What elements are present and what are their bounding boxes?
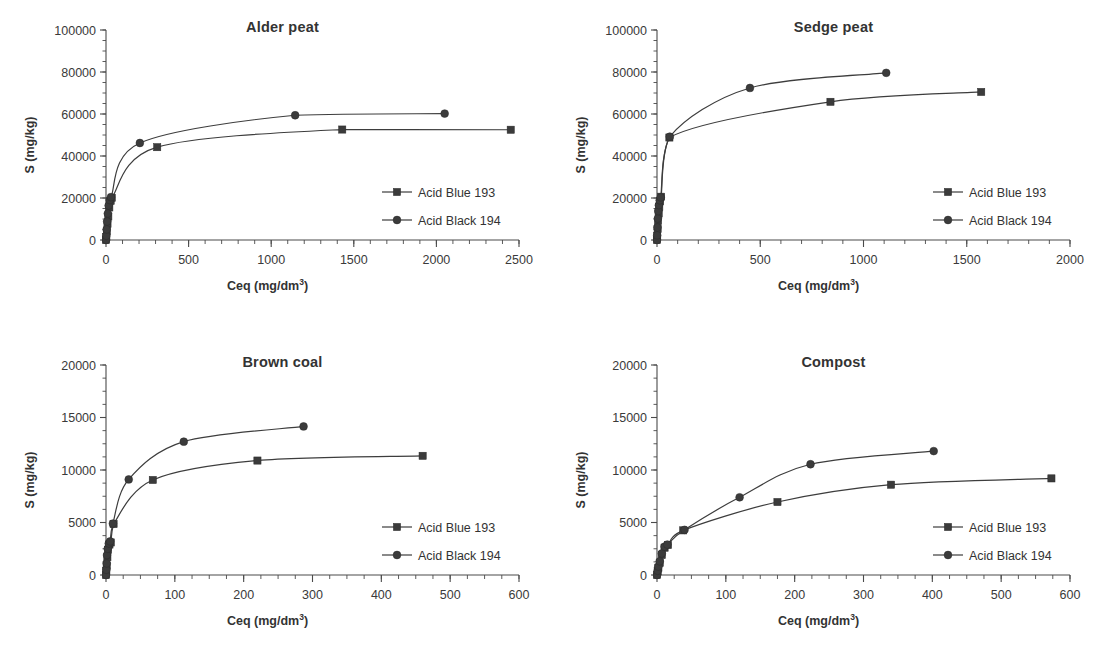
data-point-square [978,88,985,95]
x-tick-label: 1000 [257,253,285,267]
x-tick-label: 0 [654,253,661,267]
data-point-circle [441,110,449,118]
x-tick-label: 300 [302,588,323,602]
chart-panel-compost: Compost050001000015000200000100200300400… [551,335,1102,670]
legend-entry-acid-blue-193[interactable]: Acid Blue 193 [382,521,495,535]
y-tick-label: 20000 [612,192,647,206]
legend-label: Acid Blue 193 [969,521,1046,535]
y-tick-label: 40000 [61,150,96,164]
series-line-acid-black-194 [657,451,934,575]
legend-entry-acid-black-194[interactable]: Acid Black 194 [933,549,1052,563]
legend-label: Acid Blue 193 [418,186,495,200]
chart-panel-alder-peat: Alder peat020000400006000080000100000050… [0,0,551,335]
y-tick-label: 20000 [61,192,96,206]
x-tick-label: 500 [440,588,461,602]
y-tick-label: 0 [640,234,647,248]
legend-square-marker [393,523,400,530]
x-tick-label: 2500 [505,253,533,267]
data-point-circle [736,493,744,501]
data-point-circle [104,210,112,218]
x-tick-label: 300 [853,588,874,602]
series-line-acid-blue-193 [657,92,981,240]
data-point-circle [666,133,674,141]
y-tick-label: 100000 [54,24,96,38]
x-tick-label: 500 [991,588,1012,602]
data-point-circle [656,557,664,565]
y-tick-label: 0 [89,569,96,583]
legend-label: Acid Blue 193 [418,521,495,535]
x-tick-label: 1000 [850,253,878,267]
y-axis-label: S (mg/kg) [574,452,588,509]
x-tick-label: 500 [178,253,199,267]
data-point-square [419,452,426,459]
y-tick-label: 20000 [612,359,647,373]
data-point-square [149,476,156,483]
data-point-square [507,126,514,133]
y-tick-label: 5000 [68,516,96,530]
legend-label: Acid Black 194 [418,549,501,563]
x-tick-label: 600 [1060,588,1081,602]
y-axis-label: S (mg/kg) [574,117,588,174]
x-axis-label: Ceq (mg/dm3) [227,277,308,293]
legend-circle-marker [393,551,401,559]
x-tick-label: 200 [784,588,805,602]
data-point-circle [300,423,308,431]
chart-svg-0: Alder peat020000400006000080000100000050… [0,0,551,335]
legend-entry-acid-blue-193[interactable]: Acid Blue 193 [933,186,1046,200]
x-tick-label: 400 [922,588,943,602]
data-point-circle [882,69,890,77]
data-point-circle [654,224,662,232]
y-tick-label: 80000 [61,66,96,80]
x-tick-label: 0 [103,253,110,267]
data-point-square [339,126,346,133]
series-line-acid-black-194 [657,73,886,240]
data-point-circle [180,438,188,446]
legend-circle-marker [944,551,952,559]
legend-entry-acid-black-194[interactable]: Acid Black 194 [382,214,501,228]
y-tick-label: 15000 [61,411,96,425]
chart-title: Sedge peat [794,19,873,35]
chart-svg-2: Brown coal050001000015000200000100200300… [0,335,551,670]
data-point-circle [103,226,111,234]
data-point-circle [103,218,111,226]
data-point-circle [136,139,144,147]
y-tick-label: 60000 [612,108,647,122]
y-tick-label: 5000 [619,516,647,530]
data-point-circle [807,460,815,468]
x-tick-label: 2000 [422,253,450,267]
x-axis-label: Ceq (mg/dm3) [778,277,859,293]
y-tick-label: 40000 [612,150,647,164]
data-point-circle [109,520,117,528]
y-tick-label: 80000 [612,66,647,80]
legend-label: Acid Black 194 [969,214,1052,228]
y-tick-label: 0 [89,234,96,248]
x-tick-label: 2000 [1056,253,1084,267]
legend-circle-marker [944,216,952,224]
legend-label: Acid Blue 193 [969,186,1046,200]
data-point-circle [103,560,111,568]
legend-square-marker [393,188,400,195]
chart-title: Brown coal [242,354,322,370]
legend-entry-acid-black-194[interactable]: Acid Black 194 [382,549,501,563]
data-point-circle [657,193,665,201]
x-tick-label: 200 [233,588,254,602]
data-point-circle [746,84,754,92]
x-tick-label: 0 [103,588,110,602]
chart-title: Alder peat [246,19,319,35]
figure-canvas: Alder peat020000400006000080000100000050… [0,0,1102,670]
data-point-square [154,144,161,151]
y-axis-label: S (mg/kg) [23,452,37,509]
data-point-circle [681,526,689,534]
y-axis-label: S (mg/kg) [23,117,37,174]
legend-square-marker [944,188,951,195]
x-axis-label: Ceq (mg/dm3) [778,612,859,628]
data-point-square [254,457,261,464]
y-tick-label: 10000 [61,464,96,478]
legend-entry-acid-blue-193[interactable]: Acid Blue 193 [382,186,495,200]
legend-entry-acid-blue-193[interactable]: Acid Blue 193 [933,521,1046,535]
legend-entry-acid-black-194[interactable]: Acid Black 194 [933,214,1052,228]
x-tick-label: 500 [750,253,771,267]
data-point-circle [930,447,938,455]
legend-circle-marker [393,216,401,224]
y-tick-label: 100000 [605,24,647,38]
